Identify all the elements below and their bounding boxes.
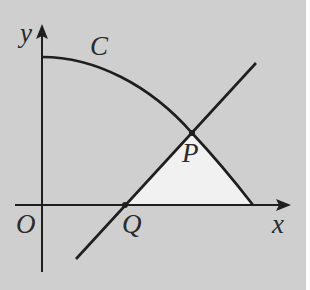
point-q-label: Q — [122, 209, 142, 239]
x-axis-label: x — [271, 209, 284, 239]
curve-label: C — [90, 31, 109, 61]
origin-label: O — [16, 209, 36, 239]
point-p-label: P — [181, 138, 199, 168]
diagram-canvas: y x O C P Q — [0, 0, 310, 290]
diagram-svg: y x O C P Q — [0, 0, 310, 290]
point-q — [122, 202, 128, 208]
point-p — [189, 130, 195, 136]
straight-line — [76, 63, 256, 259]
y-axis-label: y — [17, 18, 32, 48]
